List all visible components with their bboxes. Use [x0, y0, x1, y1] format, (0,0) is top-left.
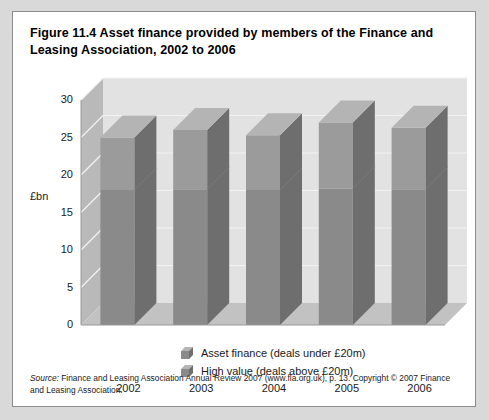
source-label: Source: [30, 373, 59, 383]
legend-item: Asset finance (deals under £20m) [181, 345, 365, 361]
chart-plot-region: £bn 051015202530 20022003200420052006 [13, 72, 475, 334]
source-note: Source: Finance and Leasing Association … [30, 373, 458, 396]
cube-icon [181, 347, 194, 360]
figure-title: Figure 11.4 Asset finance provided by me… [30, 25, 450, 59]
figure-container: Figure 11.4 Asset finance provided by me… [12, 11, 476, 407]
bar-chart-graphic [13, 72, 475, 334]
legend-item-label: Asset finance (deals under £20m) [201, 347, 365, 359]
source-text: Finance and Leasing Association Annual R… [30, 373, 450, 395]
